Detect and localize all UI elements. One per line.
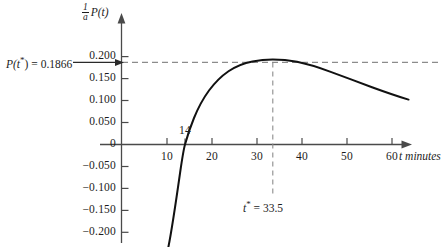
x-axis-title: t minutes <box>399 151 441 163</box>
x-tick-label-10: 10 <box>151 151 183 163</box>
y-axis-title-fraction: 1 a <box>82 3 89 23</box>
y-axis-title-denominator: a <box>82 12 89 23</box>
peak-value-label: P(t*) = 0.1866 <box>6 56 72 70</box>
y-tick-label-3: 0.050 <box>62 116 116 128</box>
x-axis <box>100 141 412 149</box>
y-tick-label-1: 0.150 <box>62 72 116 84</box>
y-tick-label-2: 0.100 <box>62 94 116 106</box>
x-tick-label-30: 30 <box>241 151 273 163</box>
peak-value-label-suffix: ) = 0.1866 <box>25 58 73 70</box>
y-tick-label-6: −0.100 <box>58 182 116 194</box>
peak-t-label: t* = 33.5 <box>243 200 283 214</box>
y-axis-title-numerator: 1 <box>82 3 89 13</box>
y-tick-label-5: −0.050 <box>58 160 116 172</box>
x-tick-label-50: 50 <box>331 151 363 163</box>
y-axis-title: 1 a P(t) <box>82 3 109 23</box>
y-axis-title-function: P(t) <box>91 6 109 18</box>
y-tick-label-4: 0 <box>62 138 116 150</box>
y-axis <box>118 13 126 243</box>
x-tick-label-20: 20 <box>196 151 228 163</box>
x-axis-ticks <box>167 138 392 145</box>
chart-figure: 1 a P(t) 0.200 0.150 0.100 0.050 0 −0.05… <box>0 0 441 247</box>
peak-value-label-prefix: P(t <box>6 58 20 70</box>
y-tick-label-8: −0.200 <box>58 226 116 238</box>
peak-t-label-suffix: = 33.5 <box>251 202 283 214</box>
zero-crossing-label: 14 <box>170 125 200 137</box>
y-tick-label-7: −0.150 <box>58 204 116 216</box>
x-tick-label-40: 40 <box>286 151 318 163</box>
